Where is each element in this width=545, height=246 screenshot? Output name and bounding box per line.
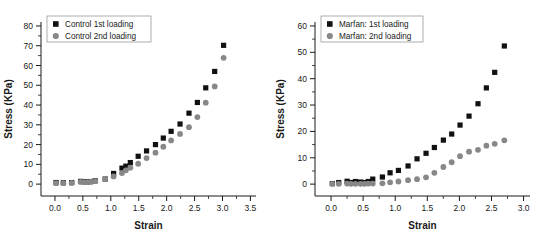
data-point-circle (177, 131, 183, 137)
data-point-circle (423, 174, 429, 180)
y-tick-label: 10 (298, 153, 308, 163)
data-point-circle (379, 180, 385, 186)
data-point-circle (53, 180, 59, 186)
data-point-circle (329, 181, 335, 187)
data-point-circle (475, 147, 481, 153)
data-point-square (186, 111, 191, 116)
x-tick-label: 2.5 (486, 203, 498, 213)
data-point-square (195, 100, 200, 105)
x-axis-title: Strain (134, 220, 162, 231)
data-point-square (441, 138, 446, 143)
x-tick-label: 1.5 (421, 203, 433, 213)
data-point-circle (60, 180, 66, 186)
data-point-circle (414, 176, 420, 182)
marfan-panel: 0.00.51.01.52.02.53.00102030405060Strain… (272, 0, 544, 246)
control-panel: 0.00.51.01.52.02.53.03.50102030405060708… (0, 0, 272, 246)
data-point-circle (153, 150, 159, 156)
data-point-square (169, 129, 174, 134)
data-point-circle (168, 138, 174, 144)
x-tick-label: 3.5 (245, 203, 257, 213)
data-point-square (502, 43, 507, 48)
series-2 (53, 55, 226, 186)
y-axis-title: Stress (KPa) (3, 79, 14, 138)
data-point-square (387, 170, 392, 175)
stress-strain-figure: 0.00.51.01.52.02.53.03.50102030405060708… (0, 0, 545, 246)
legend-marker-square (53, 21, 59, 27)
x-tick-label: 1.0 (389, 203, 401, 213)
data-point-circle (127, 165, 133, 171)
x-tick-label: 2.5 (189, 203, 201, 213)
data-point-square (212, 69, 217, 74)
data-point-circle (431, 170, 437, 176)
data-point-square (466, 114, 471, 119)
y-tick-label: 40 (24, 100, 34, 110)
data-point-circle (466, 149, 472, 155)
data-point-circle (160, 144, 166, 150)
y-tick-label: 10 (24, 159, 34, 169)
data-point-square (484, 85, 489, 90)
legend-label: Control 2nd loading (65, 32, 136, 41)
data-point-circle (449, 159, 455, 165)
data-point-square (414, 156, 419, 161)
data-point-circle (212, 84, 218, 90)
y-tick-label: 80 (24, 21, 34, 31)
data-point-circle (336, 181, 342, 187)
y-tick-label: 60 (24, 61, 34, 71)
y-tick-label: 30 (24, 120, 34, 130)
y-tick-label: 70 (24, 41, 34, 51)
data-point-circle (135, 161, 141, 167)
legend-marker-circle (327, 33, 333, 39)
series-1 (330, 43, 507, 186)
data-point-circle (102, 176, 108, 182)
data-point-circle (396, 179, 402, 185)
y-tick-label: 60 (298, 21, 308, 31)
marfan-plot: 0.00.51.01.52.02.53.00102030405060Strain… (272, 0, 545, 246)
data-point-square (432, 145, 437, 150)
legend-marker-circle (53, 33, 59, 39)
x-tick-label: 1.5 (133, 203, 145, 213)
legend-marker-square (327, 21, 333, 27)
data-point-circle (194, 114, 200, 120)
y-tick-label: 20 (298, 126, 308, 136)
x-tick-label: 3.0 (217, 203, 229, 213)
x-tick-label: 2.0 (161, 203, 173, 213)
data-point-square (161, 135, 166, 140)
data-point-square (380, 174, 385, 179)
data-point-circle (457, 153, 463, 159)
data-point-square (177, 121, 182, 126)
x-axis-title: Strain (408, 220, 436, 231)
data-point-circle (186, 124, 192, 130)
data-point-square (492, 70, 497, 75)
x-tick-label: 1.0 (105, 203, 117, 213)
data-point-square (457, 122, 462, 127)
data-point-circle (370, 181, 376, 187)
x-tick-label: 0.5 (77, 203, 89, 213)
data-point-square (405, 163, 410, 168)
data-point-circle (405, 177, 411, 183)
data-point-circle (111, 174, 117, 180)
y-tick-label: 20 (24, 140, 34, 150)
data-point-square (475, 101, 480, 106)
y-tick-label: 50 (24, 80, 34, 90)
y-axis-title: Stress (KPa) (275, 79, 286, 138)
axis-lines (41, 22, 256, 196)
x-tick-label: 2.0 (453, 203, 465, 213)
data-point-square (396, 168, 401, 173)
data-point-square (153, 142, 158, 147)
data-point-square (423, 151, 428, 156)
data-point-circle (387, 179, 393, 185)
data-point-circle (483, 143, 489, 149)
data-point-square (221, 43, 226, 48)
data-point-circle (221, 55, 227, 61)
data-point-circle (92, 178, 98, 184)
axis-lines (315, 22, 530, 196)
x-tick-label: 0.0 (325, 203, 337, 213)
legend-label: Control 1st loading (65, 20, 134, 29)
x-tick-label: 0.5 (357, 203, 369, 213)
y-tick-label: 0 (302, 179, 307, 189)
data-point-circle (440, 164, 446, 170)
legend-label: Marfan: 2nd loading (339, 32, 412, 41)
data-point-circle (353, 181, 359, 187)
control-plot: 0.00.51.01.52.02.53.03.50102030405060708… (0, 0, 272, 246)
data-point-circle (144, 155, 150, 161)
